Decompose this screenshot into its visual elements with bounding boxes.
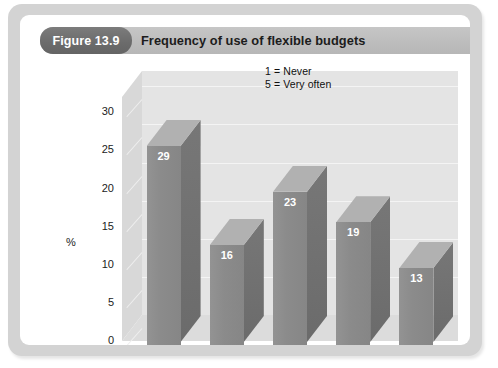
bar-front-face: 19: [336, 222, 370, 345]
bar-column: 19: [336, 196, 390, 345]
bar-value-label: 16: [210, 249, 244, 261]
bar-value-label: 13: [399, 272, 433, 284]
y-axis-tick-label: 10: [80, 258, 114, 270]
bar-front-face: 23: [273, 192, 307, 345]
bar-value-label: 19: [336, 226, 370, 238]
figure-frame: Figure 13.9 Frequency of use of flexible…: [8, 4, 482, 356]
bar-column: 13: [399, 242, 453, 345]
bar-front-face: 29: [147, 146, 181, 345]
y-axis-tick-label: 15: [80, 220, 114, 232]
legend-entry-2: 5 = Very often: [265, 78, 332, 91]
figure-header-band: Figure 13.9 Frequency of use of flexible…: [40, 27, 470, 54]
figure-number-label: Figure 13.9: [40, 27, 132, 54]
figure-panel: Figure 13.9 Frequency of use of flexible…: [20, 15, 470, 345]
legend-entry-1: 1 = Never: [265, 65, 332, 78]
y-axis-tick-label: 20: [80, 182, 114, 194]
page-title: Frequency of use of flexible budgets: [141, 27, 365, 54]
bar-column: 16: [210, 219, 264, 345]
y-axis-tick-label: 25: [80, 143, 114, 155]
y-axis-tick-label: 5: [80, 296, 114, 308]
bar-front-face: 13: [399, 268, 433, 345]
bar-value-label: 29: [147, 150, 181, 162]
bar-column: 23: [273, 166, 327, 345]
y-axis-label: %: [66, 236, 76, 248]
bar-value-label: 23: [273, 196, 307, 208]
chart-canvas: 051015202530 % 2916231913 12345 Scale 1 …: [40, 57, 470, 345]
bar-side-face: [307, 166, 327, 342]
bar-front-face: 16: [210, 245, 244, 345]
bar-column: 29: [147, 120, 201, 345]
bar-side-face: [181, 120, 201, 342]
y-axis-tick-label: 30: [80, 105, 114, 117]
y-axis-tick-label: 0: [80, 334, 114, 345]
legend: 1 = Never 5 = Very often: [261, 63, 336, 93]
